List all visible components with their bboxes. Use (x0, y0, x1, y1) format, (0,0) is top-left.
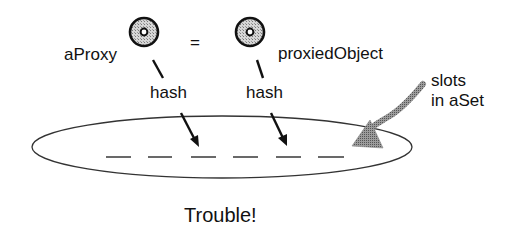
diagram-graphics (0, 0, 510, 232)
proxied-hash-label: hash (246, 84, 283, 101)
caption-trouble: Trouble! (184, 205, 257, 225)
equals-sign: = (190, 34, 200, 51)
proxy-hash-diagram: aProxy = proxiedObject hash hash slots i… (0, 0, 510, 232)
slots-pointer-arrow (352, 84, 423, 148)
slots-label-line2: in aSet (431, 92, 484, 109)
proxied-object-icon (236, 18, 264, 46)
aproxy-hash-label: hash (150, 84, 187, 101)
aproxy-label: aProxy (64, 46, 117, 63)
slots-label-line1: slots (431, 72, 466, 89)
proxied-hash-connector (257, 60, 263, 78)
aproxy-object-icon (130, 18, 158, 46)
aproxy-hash-connector (153, 60, 163, 78)
aset-ellipse (32, 116, 412, 178)
aproxy-hash-arrow (181, 113, 199, 147)
proxied-object-label: proxiedObject (278, 45, 383, 62)
